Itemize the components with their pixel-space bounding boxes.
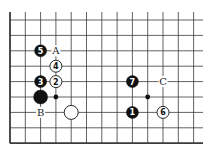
move-number: 4: [53, 62, 59, 71]
move-number: 7: [130, 78, 136, 87]
go-board-diagram: 5432716 ABC: [0, 0, 203, 155]
point-label-a: A: [51, 45, 60, 56]
dot-marker-icon: [54, 95, 59, 100]
point-label-c: C: [159, 76, 167, 87]
move-number: 3: [38, 78, 44, 87]
white-stone-4: 4: [50, 60, 62, 72]
black-stone-1: 1: [126, 106, 138, 118]
black-stone-7: 7: [126, 76, 138, 88]
white-stone: [64, 105, 78, 119]
move-number: 1: [130, 108, 136, 117]
black-stone-3: 3: [35, 76, 47, 88]
black-stone-icon: [34, 90, 48, 104]
move-number: 6: [160, 108, 166, 117]
white-stone-icon: [64, 105, 78, 119]
black-stone: [34, 90, 48, 104]
white-stone-2: 2: [50, 76, 62, 88]
black-stone-5: 5: [35, 45, 47, 57]
white-stone-6: 6: [157, 106, 169, 118]
move-number: 2: [53, 78, 59, 87]
move-number: 5: [38, 47, 44, 56]
point-label-b: B: [37, 107, 44, 118]
dot-marker-icon: [145, 95, 150, 100]
